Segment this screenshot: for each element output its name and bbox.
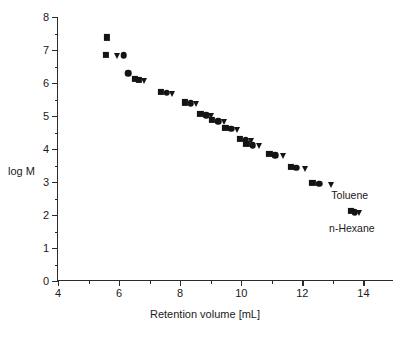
data-point-square bbox=[103, 34, 109, 40]
chart-figure: 012345678 468101214 Toluenen-Hexane log … bbox=[0, 0, 410, 337]
y-tick-minor bbox=[55, 67, 59, 68]
x-tick-major bbox=[119, 280, 120, 286]
y-tick-label: 4 bbox=[43, 144, 49, 155]
y-tick-label: 1 bbox=[43, 243, 49, 254]
x-tick-major bbox=[58, 280, 59, 286]
x-tick-minor bbox=[150, 280, 151, 284]
x-tick-major bbox=[241, 280, 242, 286]
y-tick-label: 0 bbox=[43, 276, 49, 287]
x-tick-minor bbox=[333, 280, 334, 284]
data-point-triangle bbox=[356, 210, 362, 216]
data-point-triangle bbox=[234, 127, 240, 133]
x-tick-label: 10 bbox=[235, 288, 247, 299]
y-tick-minor bbox=[55, 199, 59, 200]
x-tick-major bbox=[302, 280, 303, 286]
y-tick-minor bbox=[55, 133, 59, 134]
data-point-circle bbox=[272, 152, 279, 159]
y-tick-minor bbox=[55, 100, 59, 101]
y-tick-major bbox=[52, 215, 58, 216]
y-axis-title: log M bbox=[8, 165, 35, 177]
y-tick-minor bbox=[55, 232, 59, 233]
y-tick-minor bbox=[55, 265, 59, 266]
data-point-triangle bbox=[256, 143, 262, 149]
y-tick-minor bbox=[55, 34, 59, 35]
y-tick-label: 8 bbox=[43, 12, 49, 23]
x-tick-minor bbox=[272, 280, 273, 284]
y-tick-major bbox=[52, 50, 58, 51]
data-point-circle bbox=[125, 70, 132, 77]
data-point-triangle bbox=[169, 91, 175, 97]
y-tick-label: 3 bbox=[43, 177, 49, 188]
data-point-triangle bbox=[208, 113, 214, 119]
plot-frame: 012345678 468101214 Toluenen-Hexane bbox=[57, 17, 393, 281]
y-tick-major bbox=[52, 116, 58, 117]
data-point-triangle bbox=[221, 119, 227, 125]
data-point-triangle bbox=[193, 101, 199, 107]
y-tick-major bbox=[52, 149, 58, 150]
y-tick-major bbox=[52, 182, 58, 183]
x-tick-label: 6 bbox=[116, 288, 122, 299]
data-point-triangle bbox=[248, 138, 254, 144]
x-tick-major bbox=[363, 280, 364, 286]
data-point-triangle bbox=[328, 182, 334, 188]
y-tick-minor bbox=[55, 166, 59, 167]
x-tick-label: 8 bbox=[177, 288, 183, 299]
data-point-circle bbox=[293, 165, 300, 172]
data-point-square bbox=[309, 180, 315, 186]
x-axis-title: Retention volume [mL] bbox=[0, 308, 410, 320]
y-tick-major bbox=[52, 17, 58, 18]
x-tick-label: 14 bbox=[357, 288, 369, 299]
data-point-circle bbox=[316, 180, 323, 187]
data-point-triangle bbox=[141, 78, 147, 84]
y-tick-major bbox=[52, 248, 58, 249]
data-point-square bbox=[103, 52, 109, 58]
y-tick-label: 2 bbox=[43, 210, 49, 221]
x-tick-minor bbox=[211, 280, 212, 284]
data-point-circle bbox=[120, 52, 127, 59]
data-point-triangle bbox=[114, 53, 120, 59]
y-tick-label: 6 bbox=[43, 78, 49, 89]
x-tick-minor bbox=[89, 280, 90, 284]
annotation-label: n-Hexane bbox=[329, 222, 375, 234]
data-point-triangle bbox=[280, 153, 286, 159]
y-tick-label: 5 bbox=[43, 111, 49, 122]
x-tick-label: 12 bbox=[296, 288, 308, 299]
x-tick-label: 4 bbox=[55, 288, 61, 299]
y-tick-major bbox=[52, 83, 58, 84]
x-tick-major bbox=[180, 280, 181, 286]
annotation-label: Toluene bbox=[331, 189, 368, 201]
data-point-triangle bbox=[302, 166, 308, 172]
y-tick-label: 7 bbox=[43, 45, 49, 56]
